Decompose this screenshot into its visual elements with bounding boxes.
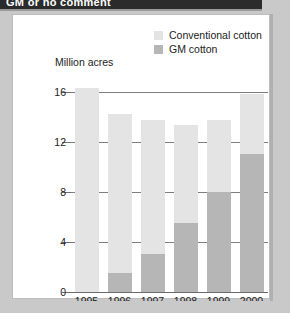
page-bottom-margin [0,301,290,313]
bar-column-1996[interactable] [108,79,132,292]
bar-segment-gm-1999 [207,192,231,292]
legend-swatch-gm-icon [154,45,163,54]
bar-column-1995[interactable] [75,79,99,292]
chart-card: Conventional cotton GM cotton Million ac… [12,14,270,299]
plot-area: 0481216 [70,79,268,292]
bar-segment-gm-1998 [174,223,198,292]
chart-page: GM or no comment Conventional cotton GM … [0,0,290,313]
chart-legend: Conventional cotton GM cotton [154,29,262,57]
bar-column-1998[interactable] [174,79,198,292]
legend-item-gm: GM cotton [154,43,262,56]
legend-item-conventional: Conventional cotton [154,29,262,42]
bar-series [70,79,268,292]
bar-segment-conventional-2000 [240,94,264,154]
legend-label-conventional: Conventional cotton [169,30,262,41]
y-tick-label-0: 0 [60,286,66,298]
bar-segment-conventional-1998 [174,125,198,223]
legend-swatch-conventional-icon [154,31,163,40]
bar-segment-conventional-1999 [207,120,231,191]
headline-underline [0,9,262,11]
y-tick-label-4: 4 [60,236,66,248]
bar-column-2000[interactable] [240,79,264,292]
bar-segment-conventional-1997 [141,120,165,254]
bar-column-1997[interactable] [141,79,165,292]
bar-segment-gm-1997 [141,254,165,292]
card-right-edge [270,14,273,301]
y-tick-label-12: 12 [54,136,66,148]
bar-column-1999[interactable] [207,79,231,292]
y-tick-label-8: 8 [60,186,66,198]
chart-headline: GM or no comment [6,0,262,8]
bar-segment-conventional-1996 [108,114,132,273]
bar-segment-gm-1996 [108,273,132,292]
gridline-0 [70,292,268,293]
bar-segment-conventional-1995 [75,88,99,292]
y-axis-title: Million acres [55,56,113,68]
y-tick-label-16: 16 [54,86,66,98]
legend-label-gm: GM cotton [169,44,217,55]
bar-segment-gm-2000 [240,154,264,292]
chart-headline-bar: GM or no comment [0,0,262,9]
